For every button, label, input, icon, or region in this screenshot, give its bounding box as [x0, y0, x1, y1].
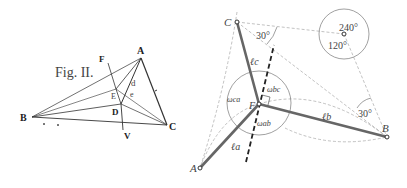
point-label-f: F	[99, 54, 105, 64]
point-c-marker	[235, 20, 239, 24]
edge-bc	[32, 117, 167, 125]
angle-label-30-b: 30°	[358, 108, 372, 119]
line-b-d	[32, 104, 121, 117]
line-f-e	[108, 63, 116, 89]
arc-f-b-lower	[285, 128, 387, 142]
point-label-c-right: C	[224, 16, 232, 28]
diagram-canvas: Fig. II. A B C D E F V d e	[0, 0, 407, 188]
dash-circle-b	[344, 34, 387, 137]
right-figure	[198, 9, 389, 170]
dot	[44, 124, 45, 125]
right-angle-marker	[262, 95, 270, 105]
angle-arc-b	[357, 98, 371, 108]
point-label-b-right: B	[382, 122, 389, 134]
segment-label-lc: ℓc	[250, 56, 259, 67]
point-label-e: E	[111, 92, 116, 101]
point-label-f-right: F	[248, 100, 256, 111]
segment-la	[200, 104, 259, 168]
point-label-b: B	[20, 112, 27, 123]
small-label-e: e	[130, 90, 134, 99]
dash-c-circle	[237, 22, 344, 34]
segment-label-la: ℓa	[231, 141, 240, 152]
point-label-a-right: A	[189, 162, 197, 174]
angle-label-wca: ωca	[227, 95, 240, 104]
line-c-e	[116, 89, 167, 125]
dot	[58, 125, 59, 126]
small-label-d: d	[131, 78, 136, 88]
line-a-e	[116, 58, 141, 89]
angle-label-30-c: 30°	[256, 30, 270, 41]
tick-ac	[155, 90, 157, 91]
point-label-d: D	[112, 107, 119, 117]
angle-label-wbc: ωbc	[267, 85, 281, 94]
line-b-e	[32, 89, 116, 117]
angle-label-120: 120°	[328, 40, 347, 51]
left-figure	[32, 58, 167, 130]
segment-label-lb: ℓb	[322, 111, 331, 122]
point-a-marker	[198, 166, 202, 170]
point-b-marker	[385, 135, 389, 139]
angle-label-wab: ωab	[257, 119, 271, 128]
point-label-v: V	[124, 131, 131, 141]
line-e-d	[116, 89, 121, 104]
point-label-c: C	[169, 121, 176, 132]
angle-label-240: 240°	[339, 22, 358, 33]
line-d-v	[121, 104, 123, 130]
point-f-marker	[257, 102, 261, 106]
point-label-a: A	[137, 45, 145, 56]
figure-title: Fig. II.	[55, 65, 94, 80]
